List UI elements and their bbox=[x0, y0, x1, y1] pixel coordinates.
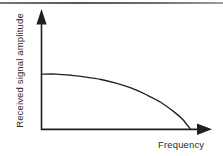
y-axis bbox=[36, 9, 46, 130]
figure-container: Received signal amplitude Frequency bbox=[0, 0, 223, 156]
y-axis-arrowhead bbox=[36, 9, 46, 25]
x-axis-label: Frequency bbox=[158, 139, 204, 150]
scan-edge-artifact bbox=[0, 2, 223, 4]
plot-area bbox=[0, 0, 223, 156]
y-axis-label: Received signal amplitude bbox=[14, 6, 25, 136]
x-axis bbox=[41, 124, 212, 135]
signal-rolloff-curve bbox=[42, 74, 191, 129]
x-axis-arrowhead bbox=[197, 124, 212, 135]
